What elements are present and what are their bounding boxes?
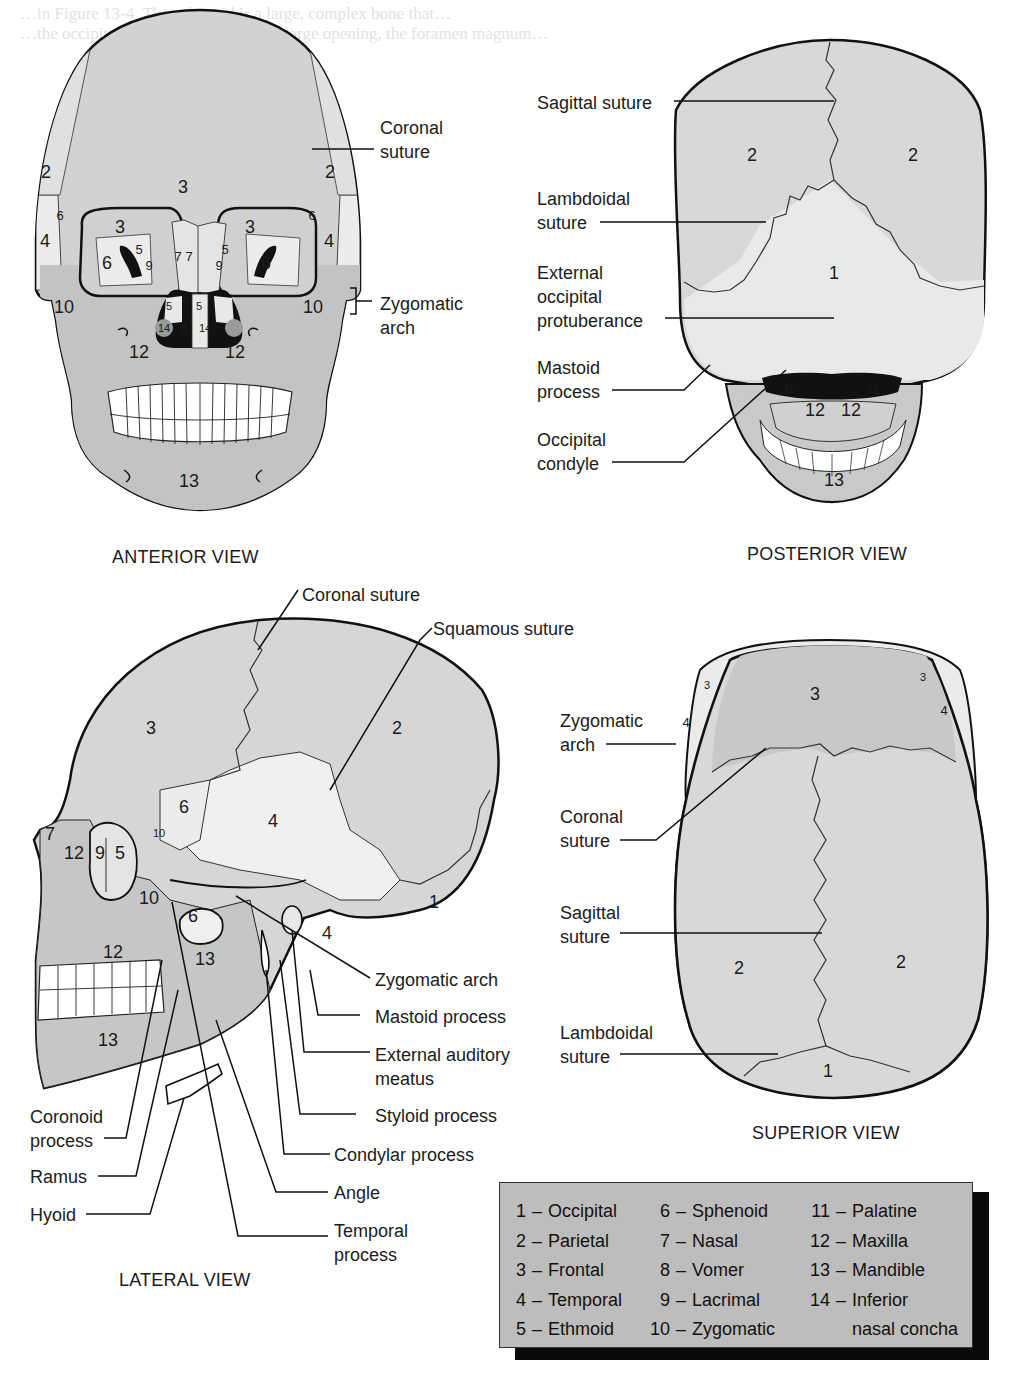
callout-line: Occipital [537,428,606,452]
callout-line: Ramus [30,1165,87,1189]
legend-item-zygomatic: 10–Zygomatic [648,1315,775,1345]
legend-item-sphenoid: 6–Sphenoid [648,1197,775,1227]
callout-line: Coronal suture [302,583,420,607]
callout-line: Coronal [560,805,623,829]
callout-line: Mastoid process [375,1005,506,1029]
callout-line: Zygomatic [560,709,643,733]
lateral-callout-external-auditory-meatus: External auditory meatus [375,1043,510,1091]
superior-parietal-left: 2 [734,958,744,978]
vomer-number: 8 [181,318,187,338]
legend-column-3: 11–Palatine 12–Maxilla 13–Mandible 14–In… [808,1197,958,1345]
legend-item-palatine: 11–Palatine [808,1197,958,1227]
lateral-frontal: 3 [146,718,156,738]
superior-occipital: 1 [823,1061,833,1081]
lateral-callout-squamous-suture: Squamous suture [433,617,574,641]
lateral-callout-styloid-process: Styloid process [375,1104,497,1128]
legend-number: 14 [808,1286,830,1316]
lateral-view-title: LATERAL VIEW [119,1269,250,1291]
lateral-callout-coronal-suture: Coronal suture [302,583,420,607]
lateral-callout-angle: Angle [334,1181,380,1205]
legend-bone-name: Sphenoid [692,1197,768,1227]
posterior-palatine-right: 11 [867,379,878,399]
legend-number: 8 [648,1256,670,1286]
legend-column-1: 1–Occipital 2–Parietal 3–Frontal 4–Tempo… [514,1197,622,1345]
superior-callout-sagittal-suture: Sagittal suture [560,901,620,949]
callout-line: Coronal [380,116,443,140]
legend-number: 13 [808,1256,830,1286]
posterior-parietal-right: 2 [908,145,918,165]
callout-line: External [537,261,643,285]
legend-dash: – [526,1197,548,1227]
posterior-callout-mastoid-process: Mastoid process [537,356,600,404]
orbit-lacrimal-right: 9 [215,256,222,276]
callout-line: suture [560,925,620,949]
nasal-ethmoid-left: 5 [166,296,172,316]
nasal-ethmoid-right: 5 [196,296,202,316]
lateral-mandible-ramus: 13 [195,949,215,969]
legend-dash: – [830,1256,852,1286]
orbit-ethmoid-left: 5 [135,240,142,260]
callout-line: suture [560,829,623,853]
legend-bone-name: Temporal [548,1286,622,1316]
lateral-zygomatic: 10 [139,888,159,908]
posterior-callout-external-occipital-protuberance: External occipital protuberance [537,261,643,333]
callout-line: Coronoid [30,1105,103,1129]
legend-dash: – [526,1286,548,1316]
superior-callout-lambdoidal-suture: Lambdoidal suture [560,1021,653,1069]
skull-diagram-page: …in Figure 13-4. The sphenoid is a large… [0,0,1022,1398]
legend-number: 2 [514,1227,526,1257]
zygomatic-right: 10 [303,297,323,317]
legend-item-occipital: 1–Occipital [514,1197,622,1227]
legend-number: 10 [648,1315,670,1345]
callout-line: condyle [537,452,606,476]
legend-bone-name: Maxilla [852,1227,908,1257]
orbit-frontal-right: 3 [245,217,255,237]
lateral-callout-zygomatic-arch: Zygomatic arch [375,968,498,992]
callout-line: process [334,1243,408,1267]
callout-line: arch [380,316,463,340]
lateral-callout-condylar-process: Condylar process [334,1143,474,1167]
lateral-skull [34,590,498,1236]
legend-item-mandible: 13–Mandible [808,1256,958,1286]
posterior-mandible: 13 [824,470,844,490]
legend-bone-name: Palatine [852,1197,917,1227]
legend-number: 4 [514,1286,526,1316]
anterior-view-title: ANTERIOR VIEW [112,546,259,568]
callout-line: Zygomatic [380,292,463,316]
legend-dash: – [830,1227,852,1257]
posterior-callout-sagittal-suture: Sagittal suture [537,91,652,115]
callout-line: meatus [375,1067,510,1091]
legend-column-2: 6–Sphenoid 7–Nasal 8–Vomer 9–Lacrimal 10… [648,1197,775,1345]
nasal-left: 7 [174,247,181,267]
legend-item-temporal: 4–Temporal [514,1286,622,1316]
callout-line: Lambdoidal [537,187,630,211]
maxilla-right: 12 [225,342,245,362]
bone-number-frontal: 3 [178,177,188,197]
posterior-view-title: POSTERIOR VIEW [747,543,907,565]
legend-bone-name: Mandible [852,1256,925,1286]
legend-item-continuation: nasal concha [808,1315,958,1345]
maxilla-left: 12 [129,342,149,362]
superior-frontal-small-right: 3 [920,667,926,687]
posterior-maxilla-right: 12 [841,400,861,420]
callout-line: Hyoid [30,1203,76,1227]
lateral-callout-temporal-process: Temporal process [334,1219,408,1267]
legend-item-ethmoid: 5–Ethmoid [514,1315,622,1345]
lateral-callout-mastoid-process: Mastoid process [375,1005,506,1029]
legend-dash: – [670,1256,692,1286]
callout-line: suture [560,1045,653,1069]
posterior-callout-occipital-condyle: Occipital condyle [537,428,606,476]
posterior-occipital: 1 [829,263,839,283]
legend-dash: – [526,1256,548,1286]
callout-line: Sagittal [560,901,620,925]
orbit-sphenoid-right: 6 [261,253,271,273]
legend-dash: – [670,1315,692,1345]
superior-frontal-small-left: 3 [704,675,710,695]
legend-number: 9 [648,1286,670,1316]
callout-line: suture [537,211,630,235]
legend-item-parietal: 2–Parietal [514,1227,622,1257]
bone-number-temporal-right: 4 [324,231,334,251]
bone-number-parietal-right: 2 [325,162,335,182]
lateral-maxilla-upper: 12 [64,843,84,863]
callout-line: arch [560,733,643,757]
